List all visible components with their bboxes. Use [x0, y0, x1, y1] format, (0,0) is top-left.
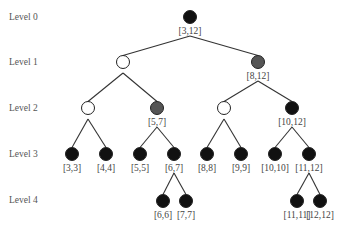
tree-edge — [174, 173, 186, 195]
tree-edge — [207, 119, 224, 148]
node-range-label: [6,7] — [165, 163, 183, 173]
tree-node-black — [269, 148, 282, 161]
tree-edge — [123, 36, 190, 56]
tree-node-black — [66, 148, 79, 161]
node-range-label: [8,8] — [198, 163, 216, 173]
tree-node-black — [314, 195, 327, 208]
node-range-label: [4,4] — [97, 163, 115, 173]
node-range-label: [5,5] — [131, 163, 149, 173]
tree-node-black — [291, 195, 304, 208]
node-range-label: [10,10] — [261, 163, 289, 173]
range-tree-diagram: [3,12][8,12][5,7][10,12][3,3][4,4][5,5][… — [0, 0, 344, 229]
node-range-label: [5,7] — [148, 117, 166, 127]
tree-node-black — [157, 195, 170, 208]
tree-node-open — [117, 56, 130, 69]
tree-edge — [297, 173, 309, 195]
tree-edge — [275, 127, 292, 148]
tree-edge — [224, 119, 241, 148]
node-range-label: [9,9] — [232, 163, 250, 173]
node-range-label: [3,3] — [63, 163, 81, 173]
tree-edge — [88, 73, 123, 102]
node-range-label: [10,12] — [278, 117, 306, 127]
level-label-3: Level 3 — [9, 149, 38, 159]
node-range-label: [8,12] — [247, 71, 270, 81]
level-label-1: Level 1 — [9, 57, 38, 67]
tree-edge — [157, 127, 174, 148]
level-label-4: Level 4 — [9, 195, 38, 205]
tree-node-black — [286, 102, 299, 115]
node-range-label: [12,12] — [306, 210, 334, 220]
tree-edge — [258, 81, 292, 102]
tree-edge — [190, 36, 258, 56]
tree-node-black — [134, 148, 147, 161]
level-label-2: Level 2 — [9, 103, 38, 113]
tree-node-black — [184, 11, 197, 24]
tree-node-black — [180, 195, 193, 208]
tree-node-black — [303, 148, 316, 161]
tree-edge — [163, 173, 174, 195]
tree-node-black — [235, 148, 248, 161]
tree-node-black — [100, 148, 113, 161]
tree-node-gray — [252, 56, 265, 69]
node-range-label: [3,12] — [179, 26, 202, 36]
tree-edge — [88, 119, 106, 148]
tree-edge — [309, 173, 320, 195]
tree-edge — [123, 73, 157, 102]
node-range-label: [11,12] — [295, 163, 322, 173]
level-labels: Level 0 Level 1 Level 2 Level 3 Level 4 — [9, 12, 38, 205]
tree-edge — [292, 127, 309, 148]
node-range-label: [7,7] — [177, 210, 195, 220]
tree-node-gray — [151, 102, 164, 115]
tree-node-black — [201, 148, 214, 161]
tree-node-open — [218, 102, 231, 115]
tree-node-black — [168, 148, 181, 161]
tree-node-open — [82, 102, 95, 115]
tree-edge — [72, 119, 88, 148]
tree-edge — [224, 81, 258, 102]
level-label-0: Level 0 — [9, 12, 38, 22]
tree-edge — [140, 127, 157, 148]
node-range-label: [6,6] — [154, 210, 172, 220]
tree-nodes: [3,12][8,12][5,7][10,12][3,3][4,4][5,5][… — [63, 11, 334, 221]
